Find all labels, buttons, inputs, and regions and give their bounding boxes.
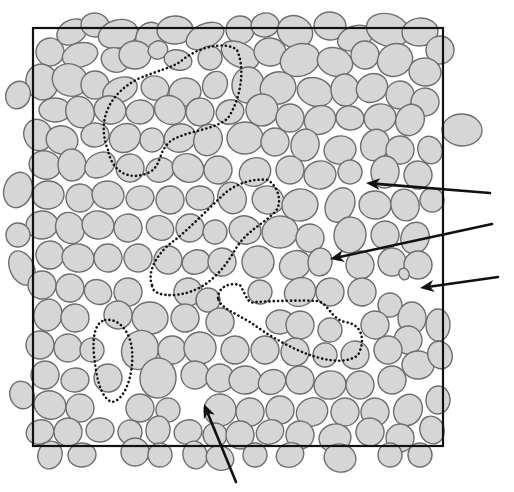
grain	[91, 241, 124, 274]
grain	[198, 67, 232, 103]
grain	[204, 156, 232, 184]
grain	[425, 385, 450, 414]
grain	[441, 113, 482, 146]
grain	[154, 246, 183, 275]
grain	[78, 336, 105, 363]
grain	[90, 179, 126, 212]
grain	[59, 302, 91, 334]
grain	[228, 365, 261, 395]
grain	[111, 211, 145, 245]
grain	[152, 182, 189, 219]
grain	[205, 245, 240, 280]
grain	[276, 333, 314, 371]
grain	[31, 180, 65, 211]
arrow-shaft	[431, 277, 498, 286]
grain	[387, 185, 424, 224]
grain	[59, 366, 90, 394]
grain	[189, 120, 227, 160]
grain	[254, 365, 290, 399]
grain	[31, 387, 69, 423]
grain	[80, 208, 116, 241]
grain	[284, 364, 317, 397]
grain	[249, 183, 287, 218]
grain	[5, 222, 30, 247]
grain	[250, 335, 280, 365]
arrow-pore-right-edge	[420, 277, 498, 292]
grain	[131, 301, 169, 335]
grain	[54, 272, 87, 305]
grain	[199, 216, 230, 247]
grain	[426, 309, 450, 341]
grain	[31, 296, 65, 333]
grain	[142, 211, 177, 244]
grain	[345, 275, 379, 309]
grain	[217, 332, 253, 368]
grain	[378, 366, 407, 395]
grain	[186, 186, 214, 210]
grain	[22, 327, 59, 364]
grain	[330, 73, 360, 107]
grain	[85, 417, 115, 444]
grain	[314, 276, 346, 308]
grain	[240, 244, 276, 280]
grain	[311, 368, 348, 402]
grain	[124, 183, 157, 213]
grain	[311, 341, 339, 369]
grain	[114, 152, 146, 184]
grain	[338, 338, 372, 372]
grain	[334, 104, 366, 133]
grain	[358, 190, 392, 221]
grain	[119, 41, 151, 70]
grain	[124, 98, 155, 126]
grain	[60, 241, 97, 275]
grain	[226, 212, 264, 247]
grain	[139, 127, 166, 154]
grain	[226, 121, 263, 154]
grain	[0, 169, 37, 212]
grain	[293, 73, 336, 111]
grain-packing-diagram	[0, 0, 514, 492]
